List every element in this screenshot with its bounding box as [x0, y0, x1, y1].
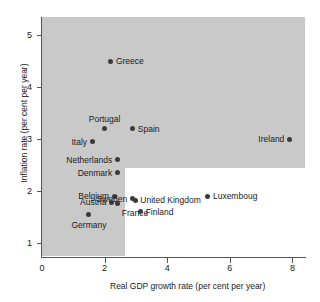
y-tick-label: 1: [18, 239, 32, 248]
data-point-label: Netherlands: [66, 155, 112, 164]
y-tick: [37, 35, 42, 36]
data-point: [86, 212, 91, 217]
x-axis-line: [41, 257, 306, 258]
x-tick-label: 2: [95, 264, 115, 273]
data-point-label: Greece: [116, 57, 144, 66]
scatter-chart: GreecePortugalSpainIrelandItalyNetherlan…: [0, 0, 320, 302]
x-tick-label: 6: [220, 264, 240, 273]
y-tick: [37, 191, 42, 192]
data-point: [133, 198, 138, 203]
x-tick-label: 0: [32, 264, 52, 273]
plot-area: GreecePortugalSpainIrelandItalyNetherlan…: [42, 17, 305, 256]
data-point: [287, 137, 292, 142]
data-point: [108, 59, 113, 64]
data-point-label: France: [122, 208, 148, 217]
data-point: [90, 139, 95, 144]
data-point-label: Spain: [138, 124, 160, 133]
data-point-label: Portugal: [89, 115, 121, 124]
x-axis-title: Real GDP growth rate (per cent per year): [110, 281, 265, 291]
data-point-label: Ireland: [258, 135, 284, 144]
data-point-label: Italy: [72, 137, 88, 146]
data-point-label: United Kingdom: [140, 196, 200, 205]
x-tick-label: 4: [157, 264, 177, 273]
data-point-label: Germany: [71, 221, 106, 230]
y-axis-line: [41, 17, 42, 258]
data-point-label: Finland: [146, 207, 174, 216]
y-tick: [37, 87, 42, 88]
data-point: [130, 126, 135, 131]
data-point-label: Sweden: [96, 194, 127, 203]
y-tick: [37, 243, 42, 244]
data-point-label: Denmark: [78, 168, 112, 177]
data-point-label: Luxemboug: [213, 192, 257, 201]
data-point: [115, 170, 120, 175]
data-point: [102, 126, 107, 131]
data-point: [115, 157, 120, 162]
y-tick: [37, 139, 42, 140]
x-tick-label: 8: [282, 264, 302, 273]
y-axis-title: Inflation rate (per cent per year): [19, 38, 29, 208]
